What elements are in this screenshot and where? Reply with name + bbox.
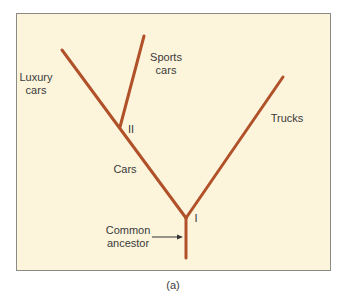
arrow-icon bbox=[152, 235, 183, 240]
label-node-two: II bbox=[125, 123, 137, 136]
label-sports-cars: Sports cars bbox=[144, 51, 188, 77]
label-common-ancestor: Common ancestor bbox=[100, 224, 156, 250]
label-line: cars bbox=[144, 64, 188, 77]
figure-caption: (a) bbox=[0, 279, 346, 291]
label-line: ancestor bbox=[100, 237, 156, 250]
label-node-one: I bbox=[192, 212, 200, 225]
label-line: Luxury bbox=[14, 71, 58, 84]
label-trucks: Trucks bbox=[264, 112, 310, 125]
branch-sports-cars bbox=[120, 36, 144, 127]
label-luxury-cars: Luxury cars bbox=[14, 71, 58, 97]
label-line: cars bbox=[14, 84, 58, 97]
label-cars: Cars bbox=[110, 163, 140, 176]
label-line: Sports bbox=[144, 51, 188, 64]
phylogenetic-tree bbox=[0, 0, 346, 300]
label-line: Common bbox=[100, 224, 156, 237]
branch-trucks bbox=[186, 77, 283, 218]
